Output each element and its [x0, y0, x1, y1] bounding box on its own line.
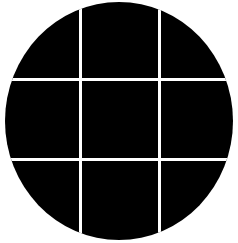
grid-circle-graphic [0, 0, 238, 243]
figure [0, 0, 238, 243]
black-circle [5, 2, 233, 240]
